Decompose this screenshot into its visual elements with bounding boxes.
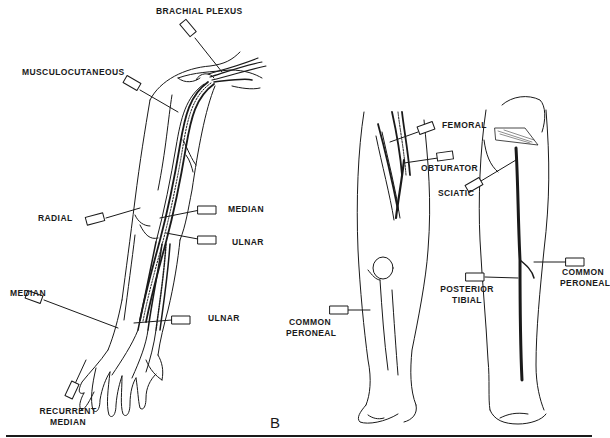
bottom-rule <box>6 435 592 437</box>
label-radial: RADIAL <box>38 213 73 224</box>
label-common-peroneal-posterior: COMMON PERONEAL <box>560 267 606 289</box>
label-common-peroneal-anterior: COMMON PERONEAL <box>286 317 334 339</box>
label-obturator: OBTURATOR <box>421 163 478 174</box>
nerve-block-illustration: BRACHIAL PLEXUS MUSCULOCUTANEOUS RADIAL … <box>0 0 610 438</box>
label-common-peroneal-anterior-line2: PERONEAL <box>286 328 334 339</box>
label-median-elbow: MEDIAN <box>228 204 264 215</box>
anatomical-drawing <box>0 0 610 438</box>
label-femoral: FEMORAL <box>442 120 487 131</box>
label-common-peroneal-posterior-line1: COMMON <box>560 267 606 278</box>
label-median-wrist: MEDIAN <box>10 288 46 299</box>
label-brachial-plexus: BRACHIAL PLEXUS <box>156 6 243 17</box>
anterior-leg-drawing <box>357 112 429 423</box>
label-common-peroneal-posterior-line2: PERONEAL <box>560 278 606 289</box>
posterior-leg-drawing <box>479 97 549 424</box>
label-posterior-tibial-line1: POSTERIOR <box>440 284 494 295</box>
label-recurrent-median-line1: RECURRENT <box>38 406 98 417</box>
label-ulnar-elbow: ULNAR <box>232 237 264 248</box>
label-recurrent-median-line2: MEDIAN <box>38 417 98 428</box>
label-sciatic: SCIATIC <box>438 188 474 199</box>
label-ulnar-wrist: ULNAR <box>208 313 240 324</box>
label-common-peroneal-anterior-line1: COMMON <box>286 317 334 328</box>
label-musculocutaneous: MUSCULOCUTANEOUS <box>22 67 125 78</box>
label-posterior-tibial: POSTERIOR TIBIAL <box>440 284 494 306</box>
label-posterior-tibial-line2: TIBIAL <box>440 295 494 306</box>
panel-letter: B <box>270 414 280 431</box>
label-recurrent-median: RECURRENT MEDIAN <box>38 406 98 428</box>
